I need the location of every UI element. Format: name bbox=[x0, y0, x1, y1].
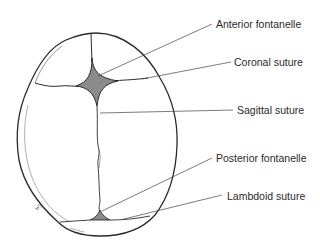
frontal-suture-line bbox=[91, 34, 92, 62]
label-anterior-fontanelle: Anterior fontanelle bbox=[216, 18, 301, 30]
anterior-fontanelle-shape bbox=[76, 58, 118, 106]
sagittal-suture-line bbox=[97, 106, 100, 212]
leader-line-lambdoid-suture bbox=[124, 195, 222, 219]
leader-line-sagittal-suture bbox=[100, 110, 233, 113]
posterior-fontanelle-shape bbox=[90, 210, 110, 220]
label-sagittal-suture: Sagittal suture bbox=[237, 104, 304, 116]
label-posterior-fontanelle: Posterior fontanelle bbox=[216, 152, 306, 164]
skull-diagram: wy bbox=[0, 0, 320, 245]
skull-inner-contour bbox=[35, 46, 62, 83]
label-coronal-suture: Coronal suture bbox=[234, 56, 303, 68]
leader-line-anterior-fontanelle bbox=[98, 24, 212, 76]
label-lambdoid-suture: Lambdoid suture bbox=[227, 190, 305, 202]
leader-line-posterior-fontanelle bbox=[102, 158, 212, 211]
artist-signature: wy bbox=[33, 200, 45, 212]
skull-inner-contour bbox=[25, 105, 70, 222]
